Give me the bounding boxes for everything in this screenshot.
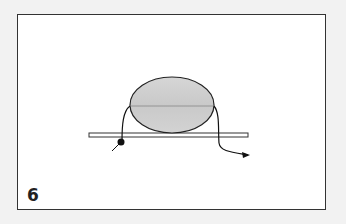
diagram-frame: 6 [17,14,326,210]
knot-diagram [18,15,325,209]
thread-tail [112,142,121,151]
thread-right [214,106,248,155]
horizontal-bar [89,133,248,137]
step-number: 6 [27,185,39,205]
arrow-head-icon [242,152,250,158]
oval-shape [130,77,214,133]
